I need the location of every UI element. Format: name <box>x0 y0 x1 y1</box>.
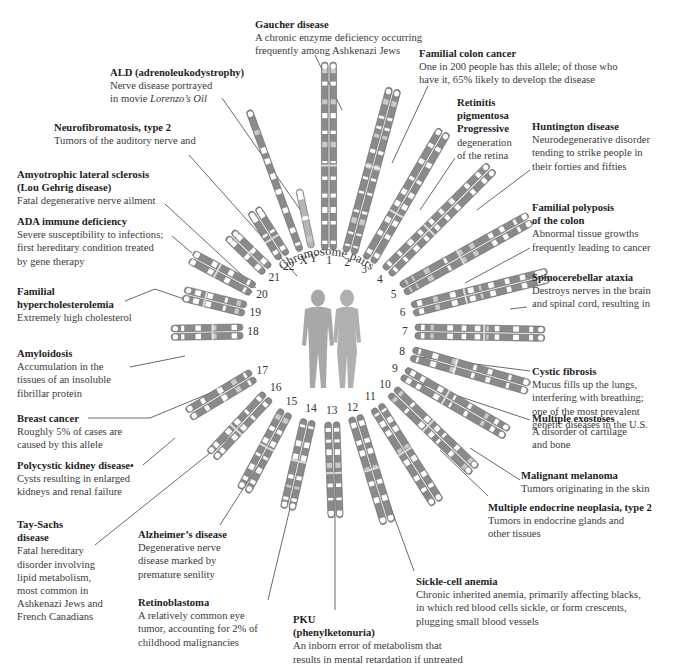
chromosome-number-2: 2 <box>344 256 350 268</box>
annotation-polycystic: Polycystic kidney disease•Cysts resultin… <box>17 459 134 499</box>
annotation-description: most common in <box>17 584 103 597</box>
chromosome-number-21: 21 <box>269 271 281 283</box>
annotation-gaucher: Gaucher diseaseA chronic enzyme deficien… <box>255 18 422 58</box>
chromosome-number-4: 4 <box>377 273 383 285</box>
annotation-description: results in mental retardation if untreat… <box>293 653 463 666</box>
annotation-description: other tissues <box>488 527 652 540</box>
annotation-title: Breast cancer <box>17 412 122 425</box>
annotation-title: Sickle-cell anemia <box>416 575 641 588</box>
annotation-title: PKU <box>293 613 463 626</box>
annotation-description: Roughly 5% of cases are <box>17 425 122 438</box>
leader-line-ada <box>172 236 192 253</box>
annotation-title: Spinocerebellar ataxia <box>532 271 651 284</box>
annotation-title: Malignant melanoma <box>521 469 650 482</box>
annotation-breast-cancer: Breast cancerRoughly 5% of cases arecaus… <box>17 412 122 452</box>
annotation-description: by gene therapy <box>17 255 163 268</box>
chromosome-number-8: 8 <box>399 345 405 357</box>
chromosome-7 <box>415 324 545 342</box>
chromosome-number-17: 17 <box>256 364 268 376</box>
annotation-title: Neurofibromatosis, type 2 <box>54 121 196 134</box>
annotation-description: An inborn error of metabolism that <box>293 639 463 652</box>
annotation-title: Cystic fibrosis <box>532 365 648 378</box>
annotation-title: Multiple endocrine neoplasia, type 2 <box>488 501 652 514</box>
annotation-description: their forties and fifties <box>532 160 650 173</box>
annotation-alzheimers: Alzheimer’s diseaseDegenerative nervedis… <box>138 528 227 581</box>
annotation-description: frequently among Ashkenazi Jews <box>255 44 422 57</box>
annotation-title: pigmentosa <box>457 109 512 122</box>
annotation-fh: FamilialhypercholesterolemiaExtremely hi… <box>17 285 132 325</box>
annotation-title: Gaucher disease <box>255 18 422 31</box>
annotation-als: Amyotrophic lateral sclerosis(Lou Gehrig… <box>17 168 156 208</box>
chromosome-number-X: X <box>300 254 308 266</box>
annotation-description: and bone <box>532 438 627 451</box>
chromosome-number-18: 18 <box>247 325 259 337</box>
chromosome-number-14: 14 <box>305 402 317 414</box>
annotation-polyposis: Familial polyposisof the colonAbnormal t… <box>532 201 651 254</box>
annotation-description: A relatively common eye <box>138 609 258 622</box>
chromosome-number-12: 12 <box>347 401 359 413</box>
annotation-description: caused by this allele <box>17 438 122 451</box>
annotation-description: One in 200 people has this allele; of th… <box>419 60 618 73</box>
chromosome-19 <box>182 286 248 317</box>
annotation-description: French Canadians <box>17 610 103 623</box>
annotation-description: Nerve disease portrayed <box>110 79 244 92</box>
chromosome-number-3: 3 <box>361 263 367 275</box>
male-figure-icon <box>302 290 334 389</box>
annotation-retinitis: RetinitispigmentosaProgressivedegenerati… <box>457 96 512 162</box>
annotation-description: Neurodegenerative disorder <box>532 133 650 146</box>
annotation-title: Familial <box>17 285 132 298</box>
annotation-title: Tay-Sachs <box>17 518 103 531</box>
chromosome-number-13: 13 <box>326 404 338 416</box>
annotation-description: of the retina <box>457 149 512 162</box>
annotation-description: Accumulation in the <box>17 360 111 373</box>
annotation-description: tissues of an insoluble <box>17 373 111 386</box>
annotation-description: degeneration <box>457 136 512 149</box>
annotation-description: Tumors of the auditory nerve and <box>54 134 196 147</box>
chromosome-number-6: 6 <box>400 306 406 318</box>
annotation-description: interfering with breathing; <box>532 391 648 404</box>
annotation-title: (Lou Gehrig disease) <box>17 181 156 194</box>
annotation-title: Retinoblastoma <box>138 596 258 609</box>
female-figure-icon <box>333 290 361 389</box>
annotation-description: in movie Lorenzo’s Oil <box>110 92 244 105</box>
annotation-title: disease <box>17 531 103 544</box>
annotation-melanoma: Malignant melanomaTumors originating in … <box>521 469 650 495</box>
annotation-huntington: Huntington diseaseNeurodegenerative diso… <box>532 120 650 173</box>
leader-line-polycystic <box>143 438 175 465</box>
chromosome-number-20: 20 <box>256 288 268 300</box>
annotation-description: Tumors in endocrine glands and <box>488 514 652 527</box>
annotation-ada: ADA immune deficiencySevere susceptibili… <box>17 215 163 268</box>
annotation-amyloidosis: AmyloidosisAccumulation in thetissues of… <box>17 347 111 400</box>
annotation-description: frequently leading to cancer <box>532 241 651 254</box>
chromosome-number-16: 16 <box>270 381 282 393</box>
annotation-exostoses: Multiple exostosesA disorder of cartilag… <box>532 412 627 452</box>
leader-line-spinocerebellar <box>510 307 527 309</box>
annotation-description: A chronic enzyme deficiency occurring <box>255 31 422 44</box>
annotation-title: ALD (adrenoleukodystrophy) <box>110 66 244 79</box>
annotation-retinoblastoma: RetinoblastomaA relatively common eyetum… <box>138 596 258 649</box>
annotation-title: Multiple exostoses <box>532 412 627 425</box>
annotation-title: Polycystic kidney disease• <box>17 459 134 472</box>
annotation-title: Progressive <box>457 122 512 135</box>
annotation-description: and spinal cord, resulting in <box>532 297 651 310</box>
annotation-description: disease marked by <box>138 554 227 567</box>
chromosome-disease-diagram: Chromosome pairs 12345678910111213141516… <box>0 0 680 669</box>
annotation-title: (phenylketonuria) <box>293 626 463 639</box>
annotation-description: lipid metabolism, <box>17 571 103 584</box>
annotation-title: Huntington disease <box>532 120 650 133</box>
annotation-title: Familial polyposis <box>532 201 651 214</box>
annotation-spinocerebellar: Spinocerebellar ataxiaDestroys nerves in… <box>532 271 651 311</box>
chromosome-number-5: 5 <box>391 288 397 300</box>
chromosome-number-1: 1 <box>326 254 332 266</box>
annotation-description: tumor, accounting for 2% of <box>138 622 258 635</box>
chromosome-number-Y: Y <box>309 252 317 264</box>
annotation-colon-cancer: Familial colon cancerOne in 200 people h… <box>419 47 618 87</box>
annotation-description: tending to strike people in <box>532 146 650 159</box>
chromosome-8 <box>410 346 532 395</box>
chromosome-13 <box>324 422 343 518</box>
annotation-title: Amyotrophic lateral sclerosis <box>17 168 156 181</box>
annotation-description: disorder involving <box>17 558 103 571</box>
annotation-ald: ALD (adrenoleukodystrophy)Nerve disease … <box>110 66 244 106</box>
annotation-description: premature senility <box>138 568 227 581</box>
chromosome-number-15: 15 <box>286 395 298 407</box>
